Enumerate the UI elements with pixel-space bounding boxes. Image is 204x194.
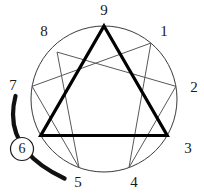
point-label-2: 2 <box>190 79 198 95</box>
point-label-4: 4 <box>130 174 138 190</box>
hexad-path <box>32 43 176 168</box>
bold-triangle-group <box>41 26 167 136</box>
point-label-1: 1 <box>160 23 168 39</box>
outer-circle <box>31 26 177 172</box>
bold-triangle <box>41 26 167 136</box>
point-label-6: 6 <box>19 141 26 156</box>
enneagram-svg: 9 1 2 3 4 5 6 7 8 <box>0 0 204 194</box>
enneagram-diagram-container: 9 1 2 3 4 5 6 7 8 <box>0 0 204 194</box>
hexad-path-group <box>32 43 176 168</box>
point-label-8: 8 <box>40 23 48 39</box>
point-label-9: 9 <box>100 2 108 18</box>
point-label-5: 5 <box>74 174 82 190</box>
point-label-3: 3 <box>184 140 192 156</box>
point-label-7: 7 <box>9 77 17 93</box>
